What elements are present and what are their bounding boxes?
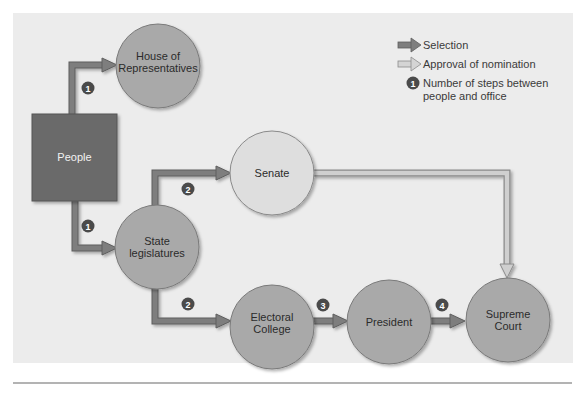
people-label: People [57, 151, 91, 163]
legend-steps-line2: people and office [423, 90, 507, 102]
electoral-label-line2: College [253, 323, 290, 335]
president-label: President [366, 316, 412, 328]
node-senate: Senate [230, 131, 314, 215]
node-people: People [32, 114, 117, 201]
node-house-of-representatives: House of Representatives [116, 24, 200, 108]
legend-selection-label: Selection [423, 39, 468, 51]
step-badge-people-state: 1 [82, 220, 95, 233]
step-badge-people-house: 1 [82, 82, 95, 95]
node-electoral-college: Electoral College [230, 285, 314, 369]
node-supreme-court: Supreme Court [466, 278, 550, 362]
node-state-legislatures: State legislatures [115, 205, 199, 289]
legend-approval-label: Approval of nomination [423, 58, 536, 70]
step-badge-electoral-president: 3 [317, 299, 330, 312]
step-badge-state-senate: 2 [182, 183, 195, 196]
svg-text:1: 1 [85, 84, 90, 94]
house-label-line2: Representatives [118, 62, 198, 74]
svg-text:2: 2 [185, 300, 190, 310]
svg-text:1: 1 [85, 222, 90, 232]
svg-text:1: 1 [410, 79, 415, 89]
node-president: President [347, 280, 431, 364]
step-badge-president-court: 4 [436, 299, 449, 312]
senate-label: Senate [255, 167, 290, 179]
svg-text:4: 4 [439, 301, 444, 311]
state-label-line1: State [144, 235, 170, 247]
state-label-line2: legislatures [129, 247, 185, 259]
electoral-label-line1: Electoral [251, 311, 294, 323]
step-number-icon: 1 [407, 77, 420, 90]
svg-text:3: 3 [320, 301, 325, 311]
court-label-line2: Court [495, 320, 522, 332]
court-label-line1: Supreme [486, 308, 531, 320]
svg-text:2: 2 [185, 185, 190, 195]
house-label-line1: House of [136, 50, 181, 62]
legend-steps-line1: Number of steps between [423, 77, 548, 89]
step-badge-state-electoral: 2 [182, 298, 195, 311]
